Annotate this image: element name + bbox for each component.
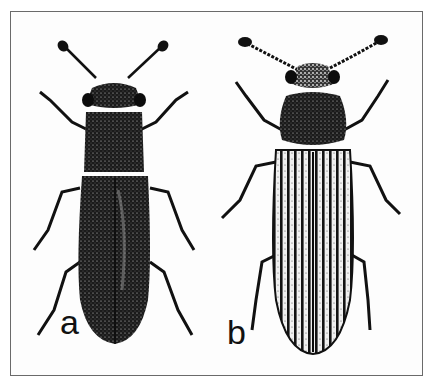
beetle-a xyxy=(34,38,194,344)
beetle-b xyxy=(222,35,400,354)
specimen-label-b: b xyxy=(227,315,246,349)
specimen-label-a: a xyxy=(60,305,79,339)
